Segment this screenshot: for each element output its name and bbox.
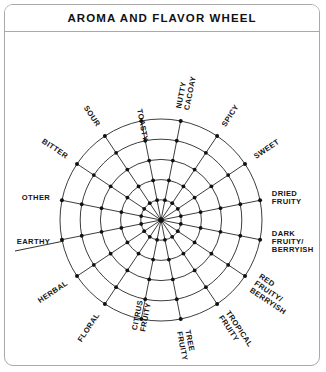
card-title-bar: AROMA AND FLAVOR WHEEL — [5, 5, 319, 32]
axis-label-herbal[interactable]: HERBAL — [36, 279, 69, 305]
vertex-dot[interactable] — [167, 258, 171, 262]
axis-label-spicy[interactable]: SPICY — [220, 103, 241, 128]
vertex-dot[interactable] — [142, 207, 146, 211]
vertex-dot[interactable] — [182, 252, 186, 256]
vertex-dot[interactable] — [170, 201, 174, 205]
vertex-dot[interactable] — [163, 238, 167, 242]
vertex-dot[interactable] — [193, 268, 197, 272]
vertex-dot[interactable] — [60, 198, 64, 202]
axis-label-line: OTHER — [22, 193, 50, 202]
vertex-dot[interactable] — [75, 162, 79, 166]
vertex-dot[interactable] — [226, 173, 230, 177]
vertex-dot[interactable] — [179, 214, 183, 218]
vertex-dot[interactable] — [103, 134, 107, 138]
vertex-dot[interactable] — [151, 258, 155, 262]
vertex-dot[interactable] — [75, 274, 79, 278]
vertex-dot[interactable] — [92, 173, 96, 177]
wheel-center-hub — [158, 217, 163, 222]
vertex-dot[interactable] — [126, 241, 130, 245]
axis-label-sour[interactable]: SOUR — [82, 104, 103, 129]
vertex-dot[interactable] — [147, 278, 151, 282]
vertex-dot[interactable] — [92, 263, 96, 267]
vertex-dot[interactable] — [238, 202, 242, 206]
vertex-dot[interactable] — [171, 159, 175, 163]
page-title: AROMA AND FLAVOR WHEEL — [67, 12, 256, 24]
vertex-dot[interactable] — [176, 229, 180, 233]
vertex-dot[interactable] — [126, 196, 130, 200]
vertex-dot[interactable] — [125, 168, 129, 172]
vertex-dot[interactable] — [209, 184, 213, 188]
vertex-dot[interactable] — [215, 134, 219, 138]
axis-label-nutty-cacoay[interactable]: NUTTYCACOAY — [174, 74, 198, 111]
vertex-dot[interactable] — [182, 185, 186, 189]
vertex-dot[interactable] — [100, 230, 104, 234]
vertex-dot[interactable] — [139, 214, 143, 218]
vertex-dot[interactable] — [119, 226, 123, 230]
vertex-dot[interactable] — [103, 302, 107, 306]
vertex-dot[interactable] — [139, 222, 143, 226]
vertex-dot[interactable] — [219, 206, 223, 210]
vertex-dot[interactable] — [258, 238, 262, 242]
vertex-dot[interactable] — [167, 178, 171, 182]
vertex-dot[interactable] — [193, 168, 197, 172]
vertex-dot[interactable] — [143, 297, 147, 301]
axis-label-bitter[interactable]: BITTER — [40, 137, 70, 161]
axis-label-toasty[interactable]: TOASTY — [135, 108, 150, 142]
vertex-dot[interactable] — [175, 297, 179, 301]
vertex-dot[interactable] — [147, 159, 151, 163]
vertex-dot[interactable] — [155, 198, 159, 202]
vertex-dot[interactable] — [238, 234, 242, 238]
axis-label-tropical-fruity[interactable]: TROPICALFRUITY — [217, 309, 255, 353]
axis-label-other[interactable]: OTHER — [22, 193, 50, 202]
vertex-dot[interactable] — [171, 278, 175, 282]
vertex-dot[interactable] — [151, 178, 155, 182]
vertex-dot[interactable] — [179, 119, 183, 123]
vertex-dot[interactable] — [137, 252, 141, 256]
axis-label-line: HERBAL — [36, 279, 69, 305]
vertex-dot[interactable] — [215, 302, 219, 306]
axis-label-line: SOUR — [82, 104, 103, 129]
vertex-dot[interactable] — [80, 234, 84, 238]
vertex-dot[interactable] — [137, 185, 141, 189]
vertex-dot[interactable] — [100, 206, 104, 210]
vertex-dot[interactable] — [119, 210, 123, 214]
axis-label-sweet[interactable]: SWEET — [252, 137, 281, 160]
vertex-dot[interactable] — [148, 235, 152, 239]
vertex-dot[interactable] — [219, 230, 223, 234]
vertex-dot[interactable] — [243, 274, 247, 278]
vertex-dot[interactable] — [258, 198, 262, 202]
vertex-dot[interactable] — [179, 317, 183, 321]
vertex-dot[interactable] — [114, 151, 118, 155]
vertex-dot[interactable] — [193, 241, 197, 245]
vertex-dot[interactable] — [176, 207, 180, 211]
vertex-dot[interactable] — [163, 198, 167, 202]
axis-label-red-fruity-berryish[interactable]: REDFRUITY/BERRYISH — [248, 272, 297, 317]
axis-label-citrus-fruity[interactable]: CITRUSFRUITY — [130, 299, 153, 332]
vertex-dot[interactable] — [243, 162, 247, 166]
vertex-dot[interactable] — [114, 285, 118, 289]
vertex-dot[interactable] — [170, 235, 174, 239]
vertex-dot[interactable] — [125, 268, 129, 272]
axis-label-tree-fruity[interactable]: TREEFRUITY — [175, 329, 198, 361]
vertex-dot[interactable] — [175, 139, 179, 143]
vertex-dot[interactable] — [80, 202, 84, 206]
vertex-dot[interactable] — [226, 263, 230, 267]
vertex-dot[interactable] — [204, 151, 208, 155]
vertex-dot[interactable] — [179, 222, 183, 226]
axis-label-dried-fruity[interactable]: DRIEDFRUITY — [272, 189, 302, 206]
vertex-dot[interactable] — [204, 285, 208, 289]
vertex-dot[interactable] — [193, 196, 197, 200]
wheel-chart-area: NUTTYCACOAYSPICYSWEETDRIEDFRUITYDARKFRUI… — [5, 32, 319, 365]
vertex-dot[interactable] — [209, 252, 213, 256]
axis-label-line: FRUITY — [272, 197, 302, 206]
axis-label-floral[interactable]: FLORAL — [76, 311, 102, 343]
vertex-dot[interactable] — [142, 229, 146, 233]
vertex-dot[interactable] — [199, 226, 203, 230]
axis-label-dark-fruity-berryish[interactable]: DARKFRUITY/BERRYISH — [272, 229, 314, 255]
vertex-dot[interactable] — [155, 238, 159, 242]
vertex-dot[interactable] — [109, 184, 113, 188]
axis-label-line: CACOAY — [182, 75, 198, 110]
vertex-dot[interactable] — [199, 210, 203, 214]
vertex-dot[interactable] — [109, 252, 113, 256]
vertex-dot[interactable] — [148, 201, 152, 205]
